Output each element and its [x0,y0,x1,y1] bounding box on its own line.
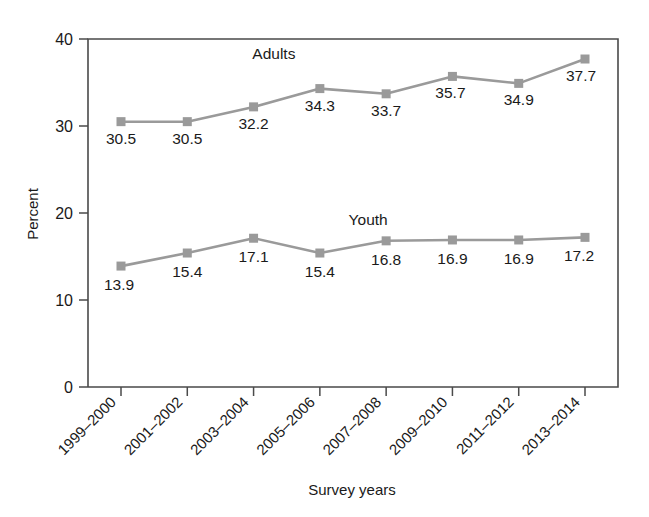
x-axis-title: Survey years [308,481,396,498]
y-axis: 010203040 [55,31,88,396]
data-point-marker [382,89,391,98]
data-point-marker [448,235,457,244]
x-tick-label: 2011–2012 [453,393,517,457]
data-point-label: 34.3 [305,97,335,114]
x-tick-label: 2005–2006 [253,393,318,458]
data-point-label: 16.9 [504,250,534,267]
line-chart: 010203040 1999–20002001–20022003–2004200… [0,0,649,517]
data-point-label: 37.7 [566,67,596,84]
data-point-label: 17.2 [564,247,594,264]
y-tick-label: 0 [64,379,73,396]
data-point-label: 32.2 [238,115,268,132]
series-annotations-layer: AdultsYouth [252,45,387,228]
data-point-label: 30.5 [172,130,202,147]
x-axis: 1999–20002001–20022003–20042005–20062007… [54,387,585,458]
data-point-label: 33.7 [371,102,401,119]
x-tick-label: 2003–2004 [187,393,252,458]
y-tick-label: 10 [55,292,73,309]
y-axis-title: Percent [24,187,41,240]
x-tick-label: 2001–2002 [120,393,185,458]
data-point-marker [581,55,590,64]
data-point-label: 16.8 [371,251,401,268]
series-name-label-adults: Adults [252,45,295,62]
data-point-label: 17.1 [238,248,268,265]
data-point-marker [382,236,391,245]
data-point-marker [315,249,324,258]
data-point-marker [183,117,192,126]
data-point-label: 16.9 [437,250,467,267]
data-point-marker [117,117,126,126]
y-tick-label: 20 [55,205,73,222]
data-point-marker [514,79,523,88]
series-layer [117,55,590,271]
y-tick-label: 30 [55,118,73,135]
data-point-label: 13.9 [104,276,134,293]
data-point-marker [249,102,258,111]
data-point-marker [315,84,324,93]
data-point-label: 35.7 [435,84,465,101]
series-name-label-youth: Youth [349,211,388,228]
data-point-label: 15.4 [172,263,203,280]
x-tick-label: 2009–2010 [385,393,450,458]
point-labels-layer: 30.530.532.234.333.735.734.937.713.915.4… [104,67,596,293]
chart-canvas: 010203040 1999–20002001–20022003–2004200… [0,0,649,517]
data-point-label: 30.5 [106,130,136,147]
y-tick-label: 40 [55,31,73,48]
x-tick-label: 2013–2014 [518,393,583,458]
data-point-marker [249,234,258,243]
x-tick-label: 1999–2000 [54,393,119,458]
data-point-label: 34.9 [504,91,534,108]
series-line-adults [121,59,585,122]
x-tick-label: 2007–2008 [319,393,384,458]
data-point-label: 15.4 [305,263,336,280]
data-point-marker [581,233,590,242]
data-point-marker [117,262,126,271]
data-point-marker [448,72,457,81]
data-point-marker [183,249,192,258]
data-point-marker [514,235,523,244]
